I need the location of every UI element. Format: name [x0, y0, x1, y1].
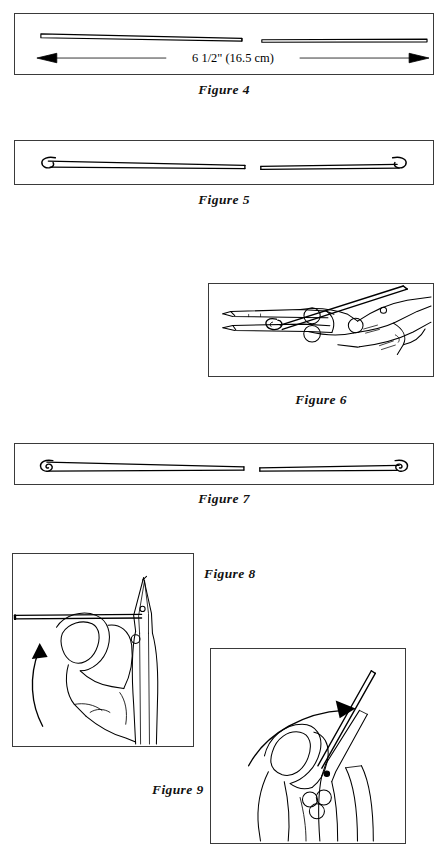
illustration-page: 6 1/2" (16.5 cm) Figure 4 Figure 5 — [0, 0, 447, 855]
figure-caption-fig6: Figure 6 — [208, 392, 434, 408]
figure-panel-fig7 — [14, 443, 434, 485]
figure-caption-fig9: Figure 9 — [152, 782, 204, 798]
figure-panel-fig9 — [210, 648, 406, 844]
figure-caption-fig5: Figure 5 — [14, 192, 434, 208]
figure-panel-fig4: 6 1/2" (16.5 cm) — [14, 13, 434, 75]
figure-4-drawing: 6 1/2" (16.5 cm) — [15, 14, 433, 74]
figure-panel-fig5 — [14, 140, 434, 185]
figure-9-drawing — [211, 649, 405, 843]
figure-caption-fig4: Figure 4 — [14, 82, 434, 98]
figure-7-drawing — [15, 444, 433, 484]
figure-5-drawing — [15, 141, 433, 184]
figure-panel-fig6 — [208, 283, 434, 377]
figure-caption-fig8: Figure 8 — [204, 566, 256, 582]
figure-8-drawing — [13, 554, 193, 746]
figure-6-drawing — [209, 284, 433, 376]
dimension-label: 6 1/2" (16.5 cm) — [192, 51, 274, 65]
figure-caption-fig7: Figure 7 — [14, 491, 434, 507]
figure-panel-fig8 — [12, 553, 194, 747]
